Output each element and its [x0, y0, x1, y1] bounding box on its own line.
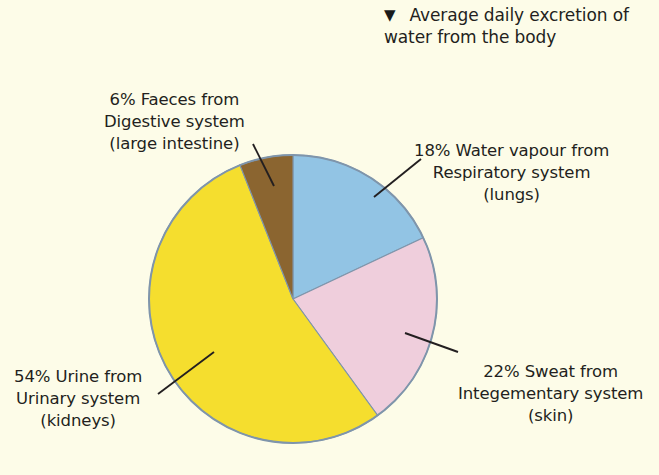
slice-label-vapour-line-2: Respiratory system [414, 162, 609, 184]
slice-label-vapour: 18% Water vapour from Respiratory system… [414, 140, 609, 206]
caption-line-2: water from the body [384, 27, 556, 47]
caption-line-1: Average daily excretion of [409, 5, 628, 25]
slice-label-urine-line-3: (kidneys) [14, 410, 142, 432]
pie-chart-figure: ▼Average daily excretion of water from t… [0, 0, 659, 475]
slice-label-sweat-line-3: (skin) [458, 405, 643, 427]
slice-label-faeces: 6% Faeces from Digestive system (large i… [104, 89, 245, 155]
slice-label-vapour-line-3: (lungs) [414, 184, 609, 206]
figure-caption: ▼Average daily excretion of water from t… [384, 4, 656, 49]
slice-label-faeces-line-2: Digestive system [104, 111, 245, 133]
slice-label-urine-line-1: 54% Urine from [14, 366, 142, 388]
slice-label-sweat-line-1: 22% Sweat from [458, 361, 643, 383]
slice-label-sweat-line-2: Integementary system [458, 383, 643, 405]
slice-label-vapour-line-1: 18% Water vapour from [414, 140, 609, 162]
slice-label-sweat: 22% Sweat from Integementary system (ski… [458, 361, 643, 427]
slice-label-urine-line-2: Urinary system [14, 388, 142, 410]
slice-label-faeces-line-1: 6% Faeces from [104, 89, 245, 111]
triangle-down-icon: ▼ [384, 8, 395, 23]
slice-label-faeces-line-3: (large intestine) [104, 133, 245, 155]
slice-label-urine: 54% Urine from Urinary system (kidneys) [14, 366, 142, 432]
